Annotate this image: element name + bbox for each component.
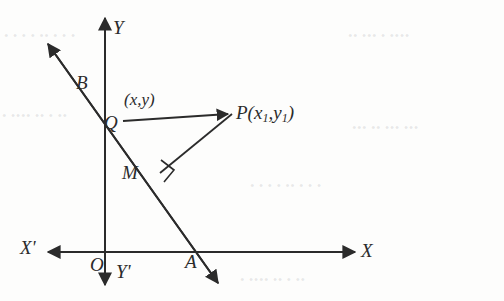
label-x-axis-negative: X' — [20, 238, 36, 257]
label-p-name: P(x — [236, 102, 262, 123]
label-point-a: A — [185, 252, 197, 271]
label-q-coordinates: (x,y) — [124, 91, 155, 108]
figure-drawing-canvas: X) --> Y') --> — [0, 0, 504, 301]
coordinate-geometry-figure: • • • • •• • • • •• ••• • •••• • •••• ••… — [0, 0, 504, 301]
label-x-axis-positive: X — [361, 241, 373, 260]
label-y-axis-positive: Y — [113, 18, 124, 37]
segment-qp — [123, 114, 228, 121]
segment-pm-perpendicular — [160, 114, 232, 173]
label-point-p: P(x1,y1) — [236, 103, 294, 124]
label-origin: O — [90, 255, 104, 274]
label-point-q: Q — [104, 113, 118, 132]
label-p-mid: ,y — [268, 102, 281, 123]
label-y-axis-negative: Y' — [116, 262, 131, 281]
label-point-b: B — [76, 73, 88, 92]
label-point-m: M — [122, 163, 138, 182]
label-p-close: ) — [288, 102, 294, 123]
